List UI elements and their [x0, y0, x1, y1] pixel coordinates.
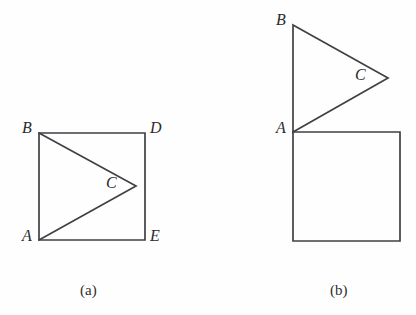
vertex-label-a: A [276, 120, 286, 136]
vertex-label-c: C [355, 67, 366, 83]
triangle-abc-sides [39, 133, 136, 240]
geometry-drawing [0, 0, 416, 315]
diagram-canvas: B D A E C (a) B A C (b) [0, 0, 416, 315]
triangle-abc-outline [293, 25, 388, 132]
subfigure-caption-a: (a) [80, 283, 97, 298]
figure-b-geometry [293, 25, 400, 241]
vertex-label-c: C [106, 175, 117, 191]
square-below-outline [293, 132, 400, 241]
vertex-label-d: D [150, 120, 162, 136]
square-abde-outline [39, 133, 145, 240]
subfigure-caption-b: (b) [330, 283, 348, 298]
vertex-label-a: A [22, 228, 32, 244]
vertex-label-b: B [22, 120, 32, 136]
vertex-label-b: B [276, 12, 286, 28]
vertex-label-e: E [150, 228, 160, 244]
figure-a-geometry [39, 133, 145, 240]
